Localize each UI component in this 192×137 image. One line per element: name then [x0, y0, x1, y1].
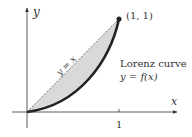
- lorenz-diagram: y x 1 (1, 1) y = x Lorenz curve y = f(x): [0, 0, 192, 137]
- endpoint-dot: [117, 17, 122, 22]
- x-tick-label: 1: [116, 119, 122, 130]
- curve-equation-label: y = f(x): [119, 71, 158, 82]
- curve-label: Lorenz curve: [120, 58, 187, 69]
- point-label: (1, 1): [126, 10, 153, 21]
- x-axis-label: x: [171, 95, 178, 108]
- y-axis-label: y: [32, 5, 40, 19]
